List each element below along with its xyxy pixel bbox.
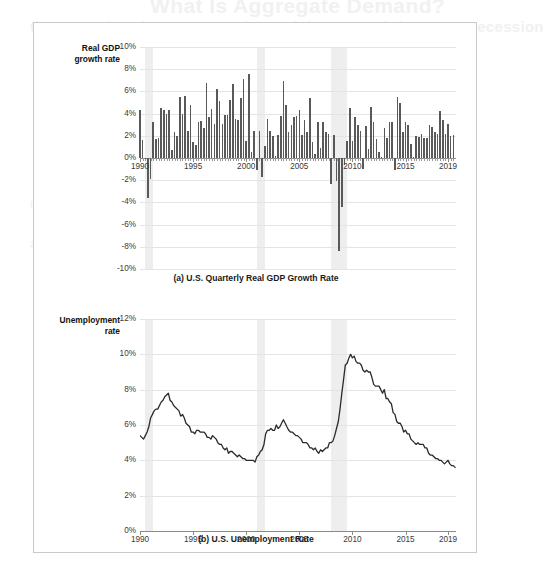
gdp-bar [200,121,202,158]
gdp-bar [418,137,420,158]
gdp-bar [439,111,441,158]
quarter-tick [360,158,361,161]
quarter-tick [329,158,330,161]
gdp-bar [235,119,237,158]
quarter-tick [169,158,170,161]
quarter-tick [347,158,348,161]
y-axis-tick-label: -2% [121,176,136,184]
y-axis-tick-label: 10% [120,43,136,51]
gdp-bar [142,140,144,158]
quarter-tick [175,158,176,161]
gdp-bar [152,122,154,158]
quarter-tick [217,158,218,161]
quarter-tick [291,158,292,161]
quarter-tick [350,158,351,161]
gdp-bar [293,117,295,158]
gdp-bar [399,103,401,159]
gdp-bar [447,124,449,158]
quarter-tick [212,158,213,161]
quarter-tick [196,158,197,161]
gdp-bar [330,158,332,184]
gdp-caption: (a) U.S. Quarterly Real GDP Growth Rate [34,273,478,283]
quarter-tick [421,158,422,161]
gdp-bar [269,131,271,158]
quarter-tick [323,158,324,161]
gdp-bar [370,107,372,158]
quarter-tick [411,158,412,161]
gdp-bar [214,124,216,158]
unemployment-axis-title: Unemployment rate [34,315,120,337]
gdp-bar [413,157,415,158]
gdp-bar [182,114,184,158]
gdp-bar [445,134,447,158]
gdp-bar [150,158,152,179]
x-axis-tick-label: 2000 [237,163,255,171]
quarter-tick [355,158,356,161]
quarter-tick [222,158,223,161]
quarter-tick [437,158,438,161]
quarter-tick [440,158,441,161]
gdp-bar [434,132,436,158]
quarter-tick [416,158,417,161]
gdp-bar [267,119,269,158]
gdp-bar [248,74,250,158]
quarter-tick [254,158,255,161]
gdp-bar [171,150,173,158]
quarter-tick [206,158,207,161]
gridline [140,225,456,226]
quarter-tick [161,158,162,161]
x-axis-tick-label: 2015 [396,163,414,171]
quarter-tick [432,158,433,161]
quarter-tick [326,158,327,161]
gdp-bar [245,141,247,158]
gdp-bar [240,98,242,158]
quarter-tick [275,158,276,161]
gdp-bar [163,110,165,158]
quarter-tick [384,158,385,161]
gdp-bar [160,108,162,158]
quarter-tick [387,158,388,161]
y-axis-tick-label: 2% [124,492,136,500]
gdp-bar [208,117,210,158]
gdp-bar [386,138,388,158]
gdp-bar [139,110,141,158]
x-axis-tick-label: 1995 [184,163,202,171]
gdp-bar [405,122,407,158]
y-axis-tick-label: -6% [121,220,136,228]
gdp-bar [176,136,178,158]
quarter-tick [435,158,436,161]
gdp-bar [219,101,221,158]
quarter-tick [249,158,250,161]
gdp-bar [352,141,354,158]
quarter-tick [209,158,210,161]
gdp-bar [389,122,391,158]
quarter-tick [270,158,271,161]
gdp-bar [442,120,444,158]
gdp-bar [206,83,208,158]
quarter-tick [153,158,154,161]
quarter-tick [382,158,383,161]
gdp-bar [309,98,311,158]
gdp-bar [450,136,452,158]
gdp-bar [195,145,197,158]
gdp-bar [224,115,226,158]
quarter-tick [334,158,335,161]
y-axis-tick-label: -8% [121,243,136,251]
gdp-bar [402,132,404,158]
gdp-bar [291,125,293,158]
gdp-bar [376,139,378,158]
x-axis-tick-label: 2005 [290,163,308,171]
quarter-tick [267,158,268,161]
quarter-tick [278,158,279,161]
gdp-bar [232,84,234,158]
quarter-tick [398,158,399,161]
quarter-tick [297,158,298,161]
gdp-axis-title: Real GDP growth rate [40,43,120,65]
quarter-tick [182,158,183,161]
y-axis-tick-label: 6% [124,87,136,95]
panel-gdp-growth: Real GDP growth rate 10%8%6%4%2%0%-2%-4%… [34,23,478,295]
quarter-tick [225,158,226,161]
gdp-bar [299,110,301,158]
gdp-plot-area: 10%8%6%4%2%0%-2%-4%-6%-8%-10%19901995200… [140,47,456,269]
gdp-bar [397,97,399,158]
